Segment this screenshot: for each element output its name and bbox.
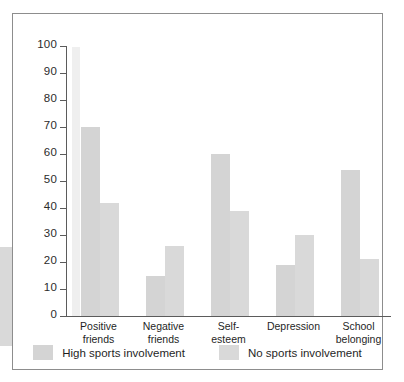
legend-label-high-sports: High sports involvement <box>62 347 185 359</box>
bar-no-sports-2 <box>165 246 184 316</box>
y-tick-label-100: 100 <box>25 38 57 50</box>
y-tick-mark-80 <box>60 100 67 101</box>
y-tick-label-40: 40 <box>25 200 57 212</box>
y-tick-mark-30 <box>60 235 67 236</box>
chart-legend: High sports involvement No sports involv… <box>13 345 382 360</box>
y-tick-mark-90 <box>60 73 67 74</box>
y-tick-mark-10 <box>60 289 67 290</box>
y-tick-mark-60 <box>60 154 67 155</box>
axis-inner-rule <box>72 47 80 316</box>
y-tick-mark-20 <box>60 262 67 263</box>
y-tick-label-20: 20 <box>25 254 57 266</box>
y-tick-label-90: 90 <box>25 65 57 77</box>
y-tick-label-60: 60 <box>25 146 57 158</box>
x-axis-line <box>66 316 391 317</box>
legend-item-high-sports: High sports involvement <box>33 345 185 360</box>
y-tick-mark-0 <box>60 316 67 317</box>
plot-area: 1009080706050403020100 PositivefriendsNe… <box>13 14 382 369</box>
bar-high-sports-2 <box>146 276 165 317</box>
y-tick-label-10: 10 <box>25 281 57 293</box>
legend-swatch-no-sports <box>219 345 239 360</box>
y-tick-label-50: 50 <box>25 173 57 185</box>
bar-high-sports-1 <box>81 127 100 316</box>
bar-high-sports-3 <box>211 154 230 316</box>
y-tick-mark-100 <box>60 46 67 47</box>
y-tick-mark-70 <box>60 127 67 128</box>
legend-item-no-sports: No sports involvement <box>219 345 362 360</box>
bar-high-sports-5 <box>341 170 360 316</box>
y-tick-mark-40 <box>60 208 67 209</box>
y-tick-mark-50 <box>60 181 67 182</box>
y-tick-label-80: 80 <box>25 92 57 104</box>
legend-label-no-sports: No sports involvement <box>248 347 362 359</box>
y-tick-label-0: 0 <box>25 308 57 320</box>
bar-no-sports-3 <box>230 211 249 316</box>
y-tick-label-70: 70 <box>25 119 57 131</box>
bar-no-sports-4 <box>295 235 314 316</box>
bar-no-sports-1 <box>100 203 119 316</box>
x-label-5: Schoolbelonging <box>320 320 397 345</box>
bar-no-sports-5 <box>360 259 379 316</box>
bar-high-sports-4 <box>276 265 295 316</box>
figure-frame: 1009080706050403020100 PositivefriendsNe… <box>12 13 383 370</box>
y-tick-label-30: 30 <box>25 227 57 239</box>
legend-swatch-high-sports <box>33 345 53 360</box>
